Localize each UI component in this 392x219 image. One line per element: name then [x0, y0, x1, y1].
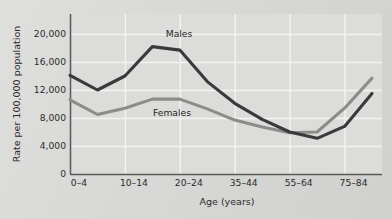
y-tick-label: 8,000: [40, 112, 66, 123]
x-tick-label: 0–4: [71, 177, 87, 188]
chart-svg: 04,0008,00012,00016,00020,000 0–410–1420…: [0, 0, 392, 219]
x-tick-label: 55–64: [285, 177, 313, 188]
x-tick-label: 35–44: [230, 177, 258, 188]
y-tick-label: 4,000: [40, 140, 66, 151]
y-axis-tick-labels: 04,0008,00012,00016,00020,000: [34, 28, 66, 179]
series-label-females: Females: [153, 107, 191, 118]
x-tick-label: 75–84: [340, 177, 368, 188]
x-axis-title: Age (years): [200, 196, 255, 207]
x-tick-label: 10–14: [120, 177, 148, 188]
y-axis-title: Rate per 100,000 population: [11, 26, 22, 162]
y-tick-label: 12,000: [34, 84, 66, 95]
series-label-males: Males: [166, 28, 193, 39]
y-tick-label: 0: [60, 168, 66, 179]
line-chart: 04,0008,00012,00016,00020,000 0–410–1420…: [0, 0, 392, 219]
plot-area-background: [70, 14, 382, 174]
y-tick-label: 16,000: [34, 56, 66, 67]
x-axis-tick-labels: 0–410–1420–2435–4455–6475–84: [71, 177, 368, 188]
x-tick-label: 20–24: [175, 177, 203, 188]
y-tick-label: 20,000: [34, 28, 66, 39]
